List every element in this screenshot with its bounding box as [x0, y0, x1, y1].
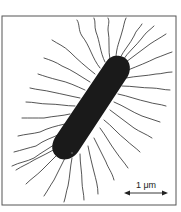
bacterium-diagram: 1 μm — [0, 0, 181, 212]
cell-spot — [71, 152, 73, 154]
scale-bar-label: 1 μm — [136, 180, 156, 190]
